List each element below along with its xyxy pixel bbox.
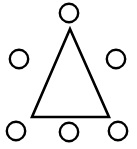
figure-canvas — [0, 0, 137, 149]
circle-left-middle — [10, 50, 28, 68]
figure-svg — [0, 0, 137, 149]
circle-bottom-right — [109, 122, 127, 140]
circle-top — [60, 4, 78, 22]
circle-bottom-center — [60, 123, 78, 141]
circle-bottom-left — [7, 122, 25, 140]
circle-right-middle — [107, 50, 125, 68]
